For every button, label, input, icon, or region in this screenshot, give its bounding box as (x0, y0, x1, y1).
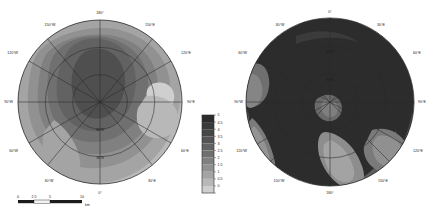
colorbar-swatch-7 (202, 165, 214, 172)
colorbar-label-5: 5 (218, 113, 220, 117)
colorbar-label-3p5: 3.5 (218, 135, 223, 139)
colorbar-swatches (202, 115, 214, 193)
scale-tick-3: 10 (80, 195, 84, 199)
lon-label-south-upper-left: 30°W (276, 23, 285, 27)
lat-label-south-inner: 60°S (326, 50, 334, 54)
colorbar-swatch-1 (202, 122, 214, 129)
lon-label-lower-right: 30°E (148, 179, 156, 183)
lon-label-south-left: 90°W (234, 100, 243, 104)
colorbar-swatch-9 (202, 179, 214, 186)
colorbar-swatch-2 (202, 129, 214, 136)
colorbar-label-1: 1 (218, 170, 220, 174)
lon-label-top: 180° (96, 11, 104, 15)
lon-label-south-bottom: 180° (326, 191, 334, 195)
lon-label-right-lower: 60°E (181, 149, 189, 153)
colorbar-swatch-8 (202, 172, 214, 179)
colorbar-label-3: 3 (218, 142, 220, 146)
lat-label-south-outer: 30°S (326, 78, 334, 82)
lon-label-right-upper: 120°E (181, 51, 191, 55)
lon-label-upper-right: 150°E (145, 23, 155, 27)
figure-canvas: 180° 150°E 120°E 90°E 60°E 30°E 0° 30°W … (0, 0, 429, 215)
colorbar-label-4p5: 4.5 (218, 121, 223, 125)
lon-label-south-right-lower: 120°E (413, 149, 423, 153)
colorbar-swatch-3 (202, 136, 214, 143)
lon-label-south-upper-right: 30°E (377, 23, 385, 27)
lon-label-south-right-upper: 60°E (413, 51, 421, 55)
scale-unit-label: km (85, 203, 90, 207)
lon-label-left-lower: 60°W (9, 149, 18, 153)
lon-label-south-right: 90°E (418, 100, 426, 104)
lat-label-inner: 60°N (96, 128, 104, 132)
lon-label-south-lower-left: 150°W (274, 179, 285, 183)
southern-polar-map: 0° 30°E 60°E 90°E 120°E 150°E 180° 150°W… (238, 0, 429, 215)
colorbar-label-1p5: 1.5 (218, 163, 223, 167)
colorbar-label-4: 4 (218, 128, 220, 132)
scale-bar: 0 2.5 5 10 km (17, 195, 90, 207)
colorbar-swatch-6 (202, 158, 214, 165)
lon-label-left-upper: 120°W (7, 51, 18, 55)
scale-tick-2: 5 (49, 195, 51, 199)
lon-label-south-lower-right: 150°E (378, 179, 388, 183)
lon-label-south-left-lower: 120°W (236, 149, 247, 153)
lon-label-south-top: 0° (328, 10, 332, 14)
northern-polar-map: 180° 150°E 120°E 90°E 60°E 30°E 0° 30°W … (0, 0, 200, 215)
colorbar-swatch-4 (202, 143, 214, 150)
lon-label-left: 90°W (4, 100, 13, 104)
map-panel-southern-hemisphere: 0° 30°E 60°E 90°E 120°E 150°E 180° 150°W… (238, 0, 429, 215)
graticule-south (246, 18, 414, 186)
contour-fill-group-south (243, 18, 414, 199)
colorbar-swatch-10 (202, 186, 214, 193)
scale-tick-1: 2.5 (32, 195, 37, 199)
lon-label-bottom: 0° (98, 191, 102, 195)
colorbar-label-0p5: 0.5 (218, 177, 223, 181)
lon-label-upper-left: 150°W (45, 23, 56, 27)
scale-tick-0: 0 (17, 195, 19, 199)
lon-label-lower-left: 30°W (45, 179, 54, 183)
lon-label-south-left-upper: 60°W (238, 51, 247, 55)
lon-label-right: 90°E (187, 100, 195, 104)
colorbar-label-2p5: 2.5 (218, 149, 223, 153)
map-panel-northern-hemisphere: 180° 150°E 120°E 90°E 60°E 30°E 0° 30°W … (0, 0, 200, 215)
colorbar-label-2: 2 (218, 156, 220, 160)
colorbar-tick-labels: 5 4.5 4 3.5 3 2.5 2 1.5 1 0.5 0 (218, 113, 223, 188)
colorbar-legend: 5 4.5 4 3.5 3 2.5 2 1.5 1 0.5 0 (201, 113, 237, 197)
colorbar-swatch-5 (202, 151, 214, 158)
colorbar-ticks (214, 115, 216, 193)
colorbar-swatch-0 (202, 115, 214, 122)
colorbar-svg: 5 4.5 4 3.5 3 2.5 2 1.5 1 0.5 0 (201, 113, 237, 197)
colorbar-label-0: 0 (218, 184, 220, 188)
lat-label-outer: 30°N (96, 156, 104, 160)
